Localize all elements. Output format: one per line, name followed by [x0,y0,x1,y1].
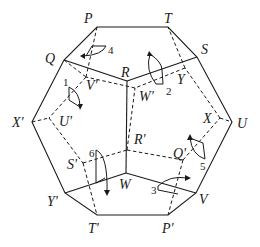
label-R: R [120,65,130,80]
label-P-prime: P' [161,221,175,236]
marker-number-2: 2 [166,85,172,97]
label-X: X [202,111,212,126]
label-W: W [119,177,132,192]
label-Q-prime: Q' [173,146,187,161]
label-U: U [237,116,248,131]
label-S: S [201,42,208,57]
label-R-prime: R' [133,132,147,147]
marker-number-3: 3 [151,184,157,196]
label-S-prime: S' [67,157,78,172]
marker-number-6: 6 [89,147,95,159]
label-T-prime: T' [88,221,100,236]
label-U-prime: U' [59,114,73,129]
rotation-marker-5 [187,134,205,159]
label-Y-prime: Y' [47,194,59,209]
label-X-prime: X' [11,115,25,130]
rotation-marker-4 [80,46,106,59]
marker-number-1: 1 [63,76,69,88]
dodecahedron-diagram: P T S U V P' T' Y' X' Q R W V' W' Y X Q'… [0,0,260,247]
rotation-marker-2 [147,51,163,84]
marker-number-4: 4 [108,44,114,56]
marker-number-5: 5 [200,160,206,172]
label-W-prime: W' [139,89,155,104]
label-P: P [83,11,93,26]
label-V-prime: V' [86,78,99,93]
label-T: T [164,11,173,26]
rotation-marker-1 [69,87,83,110]
label-Y: Y [177,72,187,87]
label-V: V [199,192,209,207]
label-Q: Q [45,51,55,66]
rotation-marker-6 [96,150,110,196]
